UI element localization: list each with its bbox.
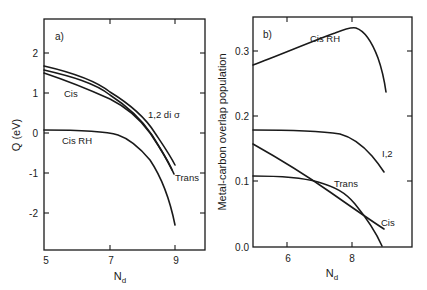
ytick-label: -2	[29, 208, 38, 219]
panel-b: 0.3 0.2 0.1 0.0 6 8 Nd Metal-carbon over…	[216, 17, 412, 282]
ytick-label: 2	[32, 48, 38, 59]
xtick-label: 9	[173, 255, 179, 266]
panel-b-xlabel: Nd	[326, 267, 338, 282]
panel-b-ytick-labels: 0.3 0.2 0.1 0.0	[235, 46, 249, 253]
label-1-2-di-sigma: 1,2 di σ	[148, 109, 180, 120]
xtick-label: 8	[349, 253, 355, 264]
panel-b-frame	[253, 17, 412, 247]
panel-b-curve-labels: Cis RH I,2 Trans Cis	[310, 33, 395, 228]
label-trans: Trans	[175, 172, 199, 183]
label-trans: Trans	[334, 178, 358, 189]
label-cis: Cis	[381, 217, 395, 228]
panel-b-ylabel: Metal-carbon overlap population	[216, 53, 228, 210]
label-cis: Cis	[64, 88, 78, 99]
curve-trans	[44, 70, 174, 174]
ytick-label: 0	[32, 128, 38, 139]
panel-a: 2 1 0 -1 -2 5 7 9 Nd Q (eV) a) Cis 1,2 d…	[10, 19, 205, 285]
curve-1-2	[253, 130, 384, 172]
figure: 2 1 0 -1 -2 5 7 9 Nd Q (eV) a) Cis 1,2 d…	[0, 0, 427, 290]
ytick-label: 0.2	[235, 111, 249, 122]
label-cis-rh: Cis RH	[310, 33, 340, 44]
panel-a-ytick-labels: 2 1 0 -1 -2	[29, 48, 38, 219]
panel-a-curve-labels: Cis 1,2 di σ Cis RH Trans	[62, 88, 199, 183]
ytick-label: 0.1	[235, 176, 249, 187]
curve-trans	[253, 176, 382, 246]
panel-b-letter: b)	[263, 29, 272, 40]
panel-a-xlabel: Nd	[114, 270, 126, 285]
xtick-label: 7	[108, 255, 114, 266]
panel-b-curves	[253, 28, 386, 246]
ytick-label: 0.3	[235, 46, 249, 57]
ytick-label: -1	[29, 168, 38, 179]
xtick-label: 5	[43, 255, 49, 266]
xtick-label: 6	[285, 253, 291, 264]
panel-a-xtick-labels: 5 7 9	[43, 255, 179, 266]
label-cis-rh: Cis RH	[62, 135, 92, 146]
panel-a-ylabel: Q (eV)	[10, 119, 22, 151]
panel-b-ticks	[253, 17, 412, 247]
ytick-label: 0.0	[235, 242, 249, 253]
panel-b-xtick-labels: 6 8	[285, 253, 355, 264]
label-1-2: I,2	[382, 148, 393, 159]
panel-a-letter: a)	[55, 31, 64, 42]
ytick-label: 1	[32, 88, 38, 99]
